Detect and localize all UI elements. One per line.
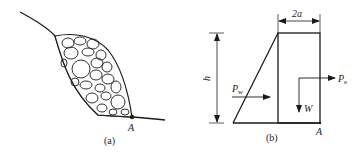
earthquake-force-label: Pe xyxy=(337,73,347,86)
figure-a-slope xyxy=(20,12,165,120)
width-label: 2a xyxy=(292,8,302,19)
water-force-label: Pw xyxy=(231,83,244,96)
point-a-label-b: A xyxy=(315,126,323,137)
boulder-mass-outline xyxy=(55,35,132,117)
weight-label: W xyxy=(304,103,314,114)
point-a-marker xyxy=(130,115,134,119)
caption-b: (b) xyxy=(266,132,278,144)
point-a-marker-b xyxy=(319,122,321,124)
point-a-label-a: A xyxy=(127,122,135,133)
caption-a: (a) xyxy=(104,135,115,147)
diagram-canvas: A (a) 2a h Pw Pe W A (b) xyxy=(0,0,361,158)
height-label: h xyxy=(201,76,212,81)
water-pressure-slope-line xyxy=(233,33,278,123)
